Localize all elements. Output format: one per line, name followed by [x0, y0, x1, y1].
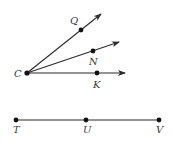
- point-label-t: T: [13, 124, 21, 135]
- point-label-u: U: [83, 124, 92, 135]
- point-label-n: N: [88, 56, 99, 67]
- point-label-c: C: [14, 68, 22, 79]
- point-c-dot: [24, 70, 29, 75]
- point-label-k: K: [92, 79, 101, 90]
- point-n-dot: [91, 49, 96, 54]
- point-u-dot: [84, 118, 89, 123]
- segment-tuv: TUV: [13, 118, 165, 135]
- point-q-dot: [79, 28, 84, 33]
- geometry-diagram: QNK TUV C: [0, 0, 172, 145]
- rays-from-c: QNK: [24, 14, 125, 90]
- point-label-q: Q: [70, 15, 78, 26]
- point-label-v: V: [156, 124, 165, 135]
- point-t-dot: [14, 118, 19, 123]
- point-k-dot: [95, 71, 100, 76]
- point-v-dot: [157, 118, 162, 123]
- ray-CN: [27, 42, 119, 73]
